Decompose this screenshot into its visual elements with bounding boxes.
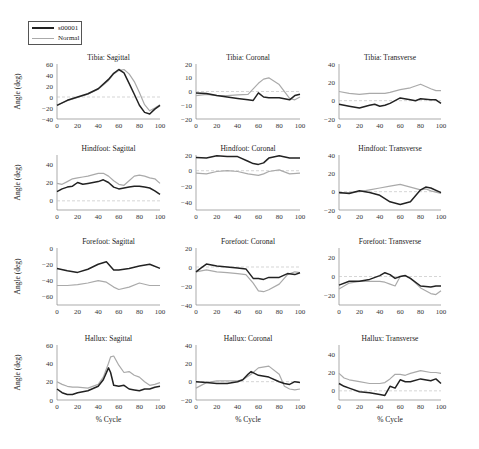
x-tick-label: 60	[397, 403, 405, 411]
y-tick-label: 10	[185, 74, 193, 82]
x-tick-label: 80	[417, 213, 425, 221]
y-tick-label: −10	[181, 102, 192, 110]
x-tick-label: 60	[255, 213, 263, 221]
panel-title: Forefoot: Sagittal	[82, 237, 135, 246]
panel-title: Hallux: Sagittal	[85, 334, 132, 343]
panel-title: Hindfoot: Sagittal	[82, 144, 136, 153]
series-subject-line	[339, 273, 441, 287]
x-tick-label: 40	[234, 403, 242, 411]
x-tick-label: 80	[276, 213, 284, 221]
x-tick-label: 40	[234, 213, 242, 221]
panel-title: Hindfoot: Coronal	[220, 144, 275, 153]
y-tick-label: 20	[328, 170, 336, 178]
y-tick-label: 40	[46, 360, 54, 368]
x-tick-label: 0	[194, 213, 198, 221]
y-tick-label: −20	[42, 105, 53, 113]
x-tick-label: 40	[376, 403, 384, 411]
y-tick-label: −40	[42, 116, 53, 124]
series-subject-line	[339, 98, 441, 108]
x-tick-label: 20	[213, 213, 221, 221]
series-subject-line	[57, 262, 160, 273]
series-normal-line	[196, 270, 300, 292]
y-tick-label: −20	[181, 397, 192, 405]
x-axis-label: % Cycle	[377, 415, 403, 424]
x-tick-label: 20	[213, 122, 221, 130]
y-tick-label: 20	[46, 179, 54, 187]
y-tick-label: 0	[189, 378, 193, 386]
x-tick-label: 0	[194, 403, 198, 411]
x-tick-label: 100	[155, 122, 166, 130]
y-tick-label: −20	[181, 183, 192, 191]
x-tick-label: 20	[213, 403, 221, 411]
x-tick-label: 0	[337, 308, 341, 316]
y-tick-label: 20	[185, 61, 193, 69]
x-tick-label: 80	[417, 308, 425, 316]
series-normal-line	[57, 70, 160, 111]
x-tick-label: 60	[115, 213, 123, 221]
y-tick-label: 0	[189, 88, 193, 96]
x-tick-label: 40	[376, 213, 384, 221]
series-subject-line	[196, 156, 300, 165]
y-tick-label: −20	[324, 292, 335, 300]
x-tick-label: 60	[255, 122, 263, 130]
x-tick-label: 100	[436, 403, 447, 411]
figure-grid: s00001 Normal Tibia: Sagittal−40−2002040…	[0, 0, 479, 449]
panel-title: Tibia: Transverse	[364, 53, 417, 62]
x-tick-label: 0	[194, 308, 198, 316]
series-subject-line	[196, 372, 300, 385]
y-tick-label: −40	[181, 199, 192, 207]
y-tick-label: −20	[324, 207, 335, 215]
y-tick-label: 60	[46, 61, 54, 69]
y-tick-label: 20	[328, 369, 336, 377]
x-tick-label: 40	[95, 403, 103, 411]
x-tick-label: 100	[436, 308, 447, 316]
x-tick-label: 0	[194, 122, 198, 130]
series-subject-line	[57, 180, 160, 195]
panel-title: Hallux: Coronal	[224, 334, 273, 343]
series-normal-line	[196, 78, 300, 100]
x-tick-label: 100	[155, 308, 166, 316]
x-tick-label: 20	[356, 403, 364, 411]
y-tick-label: −40	[181, 302, 192, 310]
series-subject-line	[339, 187, 441, 204]
x-tick-label: 40	[234, 122, 242, 130]
x-tick-label: 0	[55, 308, 59, 316]
y-axis-label: Angle (deg)	[13, 354, 22, 391]
panel-title: Tibia: Coronal	[226, 53, 270, 62]
x-tick-label: 0	[337, 403, 341, 411]
x-tick-label: 20	[356, 213, 364, 221]
x-tick-label: 80	[136, 122, 144, 130]
x-tick-label: 0	[55, 122, 59, 130]
series-subject-line	[57, 70, 160, 115]
x-tick-label: 20	[74, 403, 82, 411]
y-tick-label: −40	[42, 277, 53, 285]
plot-canvas: Tibia: Sagittal−40−200204060020406080100…	[0, 0, 479, 449]
y-tick-label: 0	[332, 273, 336, 281]
series-normal-line	[339, 84, 441, 94]
x-tick-label: 20	[74, 122, 82, 130]
x-tick-label: 100	[295, 403, 306, 411]
x-axis-label: % Cycle	[96, 415, 122, 424]
y-tick-label: 0	[50, 197, 54, 205]
x-tick-label: 100	[155, 213, 166, 221]
x-tick-label: 80	[276, 308, 284, 316]
x-tick-label: 20	[74, 308, 82, 316]
panel-title: Hindfoot: Transverse	[358, 144, 422, 153]
panel-title: Forefoot: Coronal	[221, 237, 275, 246]
y-tick-label: 40	[46, 72, 54, 80]
y-tick-label: 20	[185, 360, 193, 368]
x-tick-label: 60	[397, 308, 405, 316]
x-tick-label: 20	[356, 308, 364, 316]
x-tick-label: 60	[255, 403, 263, 411]
y-tick-label: −20	[181, 283, 192, 291]
x-tick-label: 100	[436, 122, 447, 130]
x-tick-label: 100	[295, 213, 306, 221]
y-tick-label: 60	[46, 342, 54, 350]
y-tick-label: 0	[332, 188, 336, 196]
x-tick-label: 0	[55, 213, 59, 221]
y-axis-label: Angle (deg)	[13, 258, 22, 295]
y-tick-label: 40	[328, 152, 336, 160]
y-tick-label: −20	[181, 116, 192, 124]
y-tick-label: 40	[185, 342, 193, 350]
x-tick-label: 100	[295, 122, 306, 130]
